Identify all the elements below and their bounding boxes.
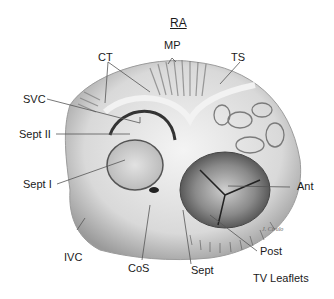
artist-signature: J. Cirulo [262, 226, 283, 232]
label-svc: SVC [23, 93, 46, 105]
label-post: Post [260, 245, 282, 257]
label-sept-i: Sept I [23, 178, 52, 190]
coronary-sinus [149, 187, 159, 193]
label-sept-ii: Sept II [19, 128, 51, 140]
label-ant: Ant [297, 180, 314, 192]
label-tv-leaflets: TV Leaflets [253, 272, 309, 284]
fossa-ovalis [107, 140, 163, 190]
tricuspid-valve [180, 152, 270, 228]
label-sept: Sept [191, 264, 214, 276]
diagram-title: RA [170, 17, 187, 29]
label-mp: MP [164, 39, 181, 51]
label-ts: TS [231, 51, 245, 63]
label-cos: CoS [128, 262, 149, 274]
label-ct: CT [98, 51, 113, 63]
label-ivc: IVC [64, 251, 82, 263]
